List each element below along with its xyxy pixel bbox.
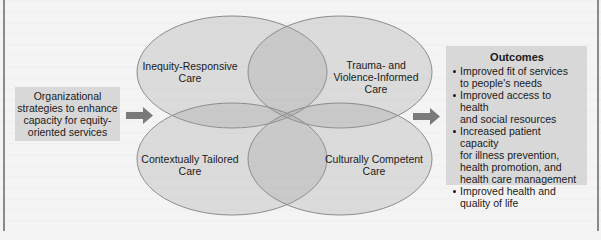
label-line: Trauma- and <box>316 59 436 71</box>
outcome-item: Increased patient capacity for illness p… <box>453 125 581 185</box>
input-line: oriented services <box>28 126 107 138</box>
label-contextually-tailored-care: Contextually Tailored Care <box>138 153 242 177</box>
label-line: Contextually Tailored <box>138 153 242 165</box>
arrow-into-venn-icon <box>126 107 153 124</box>
label-inequity-responsive-care: Inequity-Responsive Care <box>140 60 240 84</box>
input-line: strategies to enhance <box>17 102 117 114</box>
arrow-to-outcomes-icon <box>413 108 440 125</box>
outcome-line: for illness prevention, <box>460 149 581 161</box>
input-line: Organizational <box>34 90 102 102</box>
outcome-line: Improved access to health <box>460 89 581 113</box>
outcomes-box: Outcomes Improved fit of services to peo… <box>446 46 587 185</box>
outcome-line: quality of life <box>460 197 581 209</box>
outcome-item: Improved health and quality of life <box>453 185 581 209</box>
label-line: Culturally Competent <box>319 153 429 165</box>
outcomes-title: Outcomes <box>453 51 581 64</box>
label-trauma-violence-informed-care: Trauma- and Violence-Informed Care <box>316 59 436 95</box>
label-line: Inequity-Responsive <box>140 60 240 72</box>
outcomes-list: Improved fit of services to people's nee… <box>453 65 581 209</box>
outcome-line: and social resources <box>460 113 581 125</box>
label-line: Violence-Informed <box>316 71 436 83</box>
outcome-line: Increased patient capacity <box>460 125 581 149</box>
label-culturally-competent-care: Culturally Competent Care <box>319 153 429 177</box>
outcome-line: Improved health and <box>460 185 581 197</box>
label-line: Care <box>319 165 429 177</box>
outcome-item: Improved access to health and social res… <box>453 89 581 125</box>
input-line: capacity for equity- <box>23 114 111 126</box>
input-strategies-box: Organizational strategies to enhance cap… <box>15 87 120 141</box>
outcome-line: health promotion, and <box>460 161 581 173</box>
label-line: Care <box>138 165 242 177</box>
label-line: Care <box>140 72 240 84</box>
outcome-line: Improved fit of services <box>460 65 581 77</box>
label-line: Care <box>316 83 436 95</box>
outcome-line: health care management <box>460 173 581 185</box>
outcome-line: to people's needs <box>460 77 581 89</box>
outcome-item: Improved fit of services to people's nee… <box>453 65 581 89</box>
